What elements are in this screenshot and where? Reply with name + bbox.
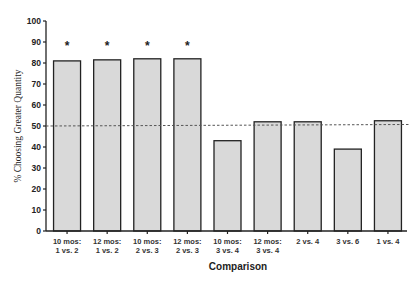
bar bbox=[174, 59, 201, 231]
y-tick-label: 100 bbox=[27, 16, 41, 26]
y-axis-label: % Choosing Greater Quantity bbox=[13, 69, 23, 182]
x-tick-label: 12 mos: bbox=[93, 237, 121, 246]
significance-marker: * bbox=[105, 39, 110, 53]
x-tick-label: 3 vs. 6 bbox=[336, 237, 359, 246]
bar bbox=[254, 122, 281, 231]
bar bbox=[294, 122, 321, 231]
y-tick-label: 80 bbox=[32, 58, 42, 68]
bar-chart: 0102030405060708090100 **** 10 mos:1 vs.… bbox=[0, 0, 419, 282]
x-tick-label: 12 mos: bbox=[253, 237, 281, 246]
bars: **** bbox=[54, 39, 402, 231]
y-tick-label: 50 bbox=[32, 121, 42, 131]
x-tick-label: 3 vs. 4 bbox=[216, 246, 240, 255]
y-tick-label: 0 bbox=[36, 226, 41, 236]
y-tick-label: 20 bbox=[32, 184, 42, 194]
significance-marker: * bbox=[145, 39, 150, 53]
x-tick-label: 10 mos: bbox=[53, 237, 81, 246]
y-tick-label: 70 bbox=[32, 79, 42, 89]
bar bbox=[54, 61, 81, 231]
x-tick-label: 12 mos: bbox=[173, 237, 201, 246]
x-tick-label: 10 mos: bbox=[213, 237, 241, 246]
x-tick-label: 1 vs. 4 bbox=[376, 237, 400, 246]
x-axis: 10 mos:1 vs. 212 mos:1 vs. 210 mos:2 vs.… bbox=[46, 231, 407, 255]
x-tick-label: 2 vs. 3 bbox=[176, 246, 199, 255]
bar bbox=[134, 59, 161, 231]
bar bbox=[334, 149, 361, 231]
x-tick-label: 3 vs. 4 bbox=[256, 246, 280, 255]
x-tick-label: 1 vs. 2 bbox=[56, 246, 79, 255]
x-axis-label: Comparison bbox=[209, 261, 267, 272]
y-tick-label: 90 bbox=[32, 37, 42, 47]
bar bbox=[214, 141, 241, 231]
y-tick-label: 40 bbox=[32, 142, 42, 152]
y-tick-label: 30 bbox=[32, 163, 42, 173]
bar bbox=[374, 121, 401, 231]
y-tick-label: 10 bbox=[32, 205, 42, 215]
y-axis: 0102030405060708090100 bbox=[27, 16, 46, 236]
bar bbox=[94, 60, 121, 231]
x-tick-label: 2 vs. 3 bbox=[136, 246, 159, 255]
significance-marker: * bbox=[65, 39, 70, 53]
x-tick-label: 2 vs. 4 bbox=[296, 237, 320, 246]
x-tick-label: 10 mos: bbox=[133, 237, 161, 246]
y-tick-label: 60 bbox=[32, 100, 42, 110]
significance-marker: * bbox=[185, 39, 190, 53]
x-tick-label: 1 vs. 2 bbox=[96, 246, 119, 255]
